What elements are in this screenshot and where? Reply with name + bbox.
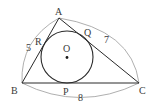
- tangent-label-q: Q: [84, 27, 92, 38]
- center-label-o: O: [63, 43, 70, 54]
- diagram-canvas: A B C O R Q P 5 7 8: [0, 0, 155, 107]
- tangent-label-p: P: [63, 86, 69, 97]
- side-length-ac: 7: [104, 34, 109, 45]
- vertex-label-b: B: [11, 85, 18, 96]
- vertex-label-c: C: [139, 85, 146, 96]
- incircle-triangle-diagram: A B C O R Q P 5 7 8: [0, 0, 155, 107]
- side-length-bc: 8: [78, 92, 83, 103]
- center-point-o: [66, 56, 69, 59]
- side-length-ab: 5: [26, 42, 31, 53]
- tangent-label-r: R: [35, 36, 42, 47]
- vertex-label-a: A: [55, 6, 63, 17]
- triangle-abc: [22, 18, 139, 83]
